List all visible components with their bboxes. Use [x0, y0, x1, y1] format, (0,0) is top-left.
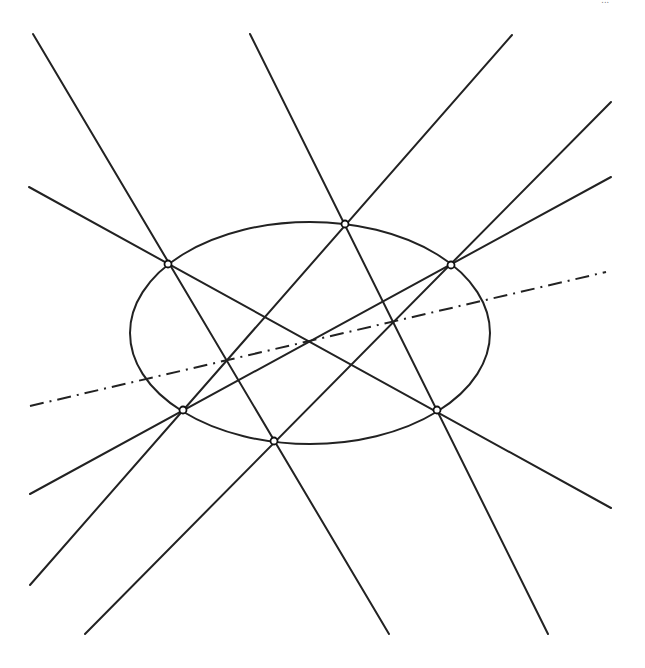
diagram-canvas [0, 0, 645, 668]
line-6 [30, 177, 611, 494]
secant-lines [29, 34, 611, 634]
point-p1 [165, 261, 172, 268]
point-p2 [342, 221, 349, 228]
point-p5 [271, 438, 278, 445]
line-5 [85, 102, 611, 634]
pascal-line [30, 272, 606, 406]
conic-points [165, 221, 455, 445]
point-p4 [434, 407, 441, 414]
point-p6 [180, 407, 187, 414]
line-3 [29, 187, 611, 508]
point-p3 [448, 262, 455, 269]
